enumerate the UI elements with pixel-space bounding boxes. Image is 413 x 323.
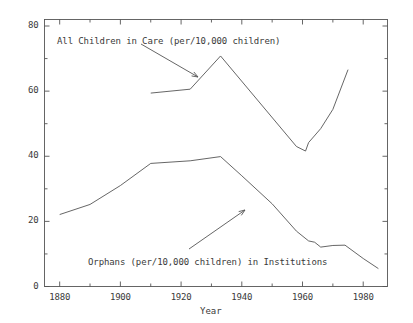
x-tick-label-1960: 1960 [283, 292, 323, 302]
x-tick-label-1920: 1920 [161, 292, 201, 302]
series-line-0 [151, 56, 348, 151]
y-tick-label-0: 0 [15, 281, 39, 291]
annotation-orphans-label: Orphans (per/10,000 children) in Institu… [88, 257, 327, 267]
line-chart-canvas [0, 0, 413, 323]
x-tick-label-1980: 1980 [343, 292, 383, 302]
chart-figure: 020406080188019001920194019601980 All Ch… [0, 0, 413, 323]
x-tick-label-1880: 1880 [40, 292, 80, 302]
data-series-lines [60, 56, 379, 269]
x-tick-label-1900: 1900 [100, 292, 140, 302]
x-axis-title: Year [200, 306, 222, 316]
axis-frame [45, 20, 388, 287]
annotation-orphans-arrow [189, 210, 245, 249]
annotation-all-children-label: All Children in Care (per/10,000 childre… [57, 36, 280, 46]
y-tick-label-20: 20 [15, 215, 39, 225]
series-line-1 [60, 157, 379, 269]
x-tick-label-1940: 1940 [222, 292, 262, 302]
y-tick-label-80: 80 [15, 20, 39, 30]
y-tick-label-60: 60 [15, 85, 39, 95]
y-tick-label-40: 40 [15, 150, 39, 160]
annotation-arrows [141, 44, 245, 249]
annotation-all-children-arrow [141, 44, 198, 77]
axis-ticks [45, 20, 388, 287]
